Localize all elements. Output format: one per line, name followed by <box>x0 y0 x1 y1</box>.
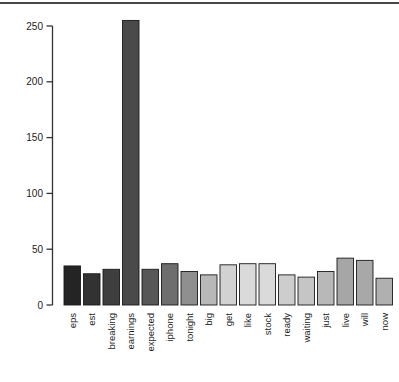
figure: 050100150200250epsestbreakingearningsexp… <box>0 0 399 382</box>
x-category-label: iphone <box>164 313 175 342</box>
x-category-label: tonight <box>184 313 195 342</box>
bar-now <box>376 278 393 305</box>
bar-get <box>220 265 237 305</box>
x-category-label: waiting <box>301 313 312 344</box>
bar-ready <box>279 275 296 305</box>
x-category-label: ready <box>281 313 292 337</box>
y-tick-label: 100 <box>26 188 43 199</box>
x-category-label: earnings <box>125 313 136 350</box>
bar-eps <box>64 266 81 305</box>
x-category-label: est <box>86 313 97 326</box>
x-category-label: get <box>223 313 234 327</box>
bar-expected <box>142 269 159 305</box>
bar-just <box>318 272 335 305</box>
x-category-label: just <box>320 313 331 329</box>
y-tick-label: 200 <box>26 76 43 87</box>
bar-tonight <box>181 272 198 305</box>
bar-earnings <box>123 20 140 305</box>
x-category-label: live <box>340 313 351 327</box>
bar-breaking <box>103 269 120 305</box>
bar-iphone <box>162 264 179 305</box>
bar-stock <box>259 264 276 305</box>
x-category-label: stock <box>262 313 273 335</box>
y-tick-label: 150 <box>26 132 43 143</box>
x-category-label: will <box>359 313 370 327</box>
x-category-label: breaking <box>106 313 117 349</box>
bar-waiting <box>298 277 315 305</box>
bar-like <box>240 264 257 305</box>
x-category-label: eps <box>67 313 78 329</box>
x-category-label: expected <box>145 313 156 352</box>
y-tick-label: 0 <box>37 300 43 311</box>
x-category-label: like <box>242 313 253 327</box>
y-tick-label: 250 <box>26 21 43 32</box>
x-category-label: big <box>203 313 214 326</box>
x-category-label: now <box>379 313 390 331</box>
bar-chart: 050100150200250epsestbreakingearningsexp… <box>0 0 399 382</box>
bar-big <box>201 275 218 305</box>
y-tick-label: 50 <box>32 244 44 255</box>
bar-will <box>357 260 374 305</box>
bar-est <box>84 274 101 305</box>
bar-live <box>337 258 354 305</box>
